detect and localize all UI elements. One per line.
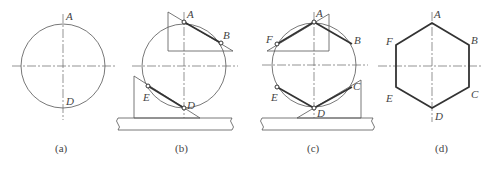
label-a-D: D bbox=[65, 95, 74, 107]
label-c-F: F bbox=[265, 33, 273, 45]
point-B-b bbox=[219, 41, 223, 45]
label-a-A: A bbox=[65, 10, 73, 22]
side-AB-b bbox=[184, 22, 221, 43]
t-square-c bbox=[261, 118, 375, 130]
point-D-b bbox=[182, 106, 186, 110]
panel-a: A D (a) bbox=[12, 10, 115, 155]
caption-b: (b) bbox=[175, 142, 188, 155]
label-d-C: C bbox=[471, 88, 479, 100]
point-D-c bbox=[312, 106, 316, 110]
point-A-b bbox=[182, 20, 186, 24]
label-d-F: F bbox=[385, 35, 393, 47]
label-c-B: B bbox=[354, 34, 361, 46]
label-d-D: D bbox=[434, 110, 443, 122]
label-d-A: A bbox=[433, 8, 441, 20]
label-d-B: B bbox=[471, 34, 478, 46]
caption-d: (d) bbox=[435, 142, 448, 155]
label-d-E: E bbox=[385, 92, 393, 104]
panel-d: A B C D E F (d) bbox=[378, 8, 483, 155]
hexagon-construction-diagram: A D (a) A B E D (b) bbox=[0, 0, 495, 169]
caption-a: (a) bbox=[55, 142, 68, 155]
point-A-c bbox=[312, 20, 316, 24]
label-c-A: A bbox=[315, 7, 323, 19]
label-b-B: B bbox=[223, 29, 230, 41]
caption-c: (c) bbox=[307, 142, 320, 155]
label-b-E: E bbox=[142, 91, 150, 103]
label-c-E: E bbox=[270, 91, 278, 103]
point-E-b bbox=[146, 84, 150, 88]
panel-b: A B E D (b) bbox=[117, 8, 239, 155]
hexagon-ABCDEF bbox=[396, 23, 469, 108]
panel-c: A F B C E D (c) bbox=[261, 7, 375, 155]
label-b-A: A bbox=[186, 8, 194, 20]
label-c-C: C bbox=[353, 80, 361, 92]
t-square-b bbox=[117, 118, 234, 130]
point-E-c bbox=[275, 85, 279, 89]
point-F-c bbox=[275, 42, 279, 46]
label-b-D: D bbox=[186, 99, 195, 111]
side-ED-b bbox=[148, 86, 184, 108]
label-c-D: D bbox=[316, 107, 325, 119]
